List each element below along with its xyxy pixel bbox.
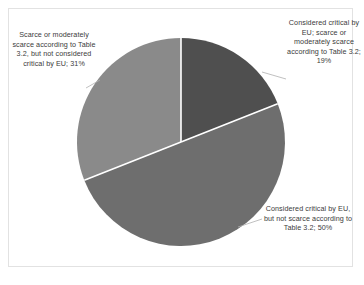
pie-label-scarce-not-critical: Scarce or moderately scarce according to… (8, 30, 100, 68)
leader-line-critical-scarce (262, 72, 286, 79)
pie-chart-figure: Considered critical by EU; scarce or mod… (0, 0, 364, 285)
pie-label-critical-scarce: Considered critical by EU; scarce or mod… (286, 18, 362, 66)
pie-label-critical-not-scarce: Considered critical by EU, but not scarc… (262, 204, 354, 233)
